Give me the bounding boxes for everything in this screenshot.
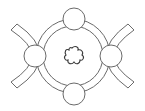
- bottom-circle: [63, 83, 85, 105]
- diagram-canvas: [0, 0, 145, 111]
- left-circle: [24, 45, 46, 67]
- ring-diagram: [0, 0, 145, 111]
- top-circle: [63, 8, 85, 30]
- right-circle: [100, 45, 122, 67]
